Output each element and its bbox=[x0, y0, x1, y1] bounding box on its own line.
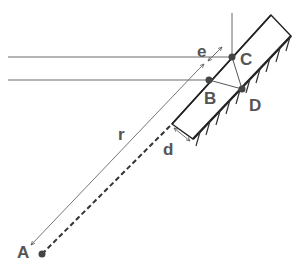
label-d: D bbox=[249, 96, 261, 115]
point-c bbox=[229, 54, 236, 61]
dimension-arrow-e-lower bbox=[197, 64, 204, 71]
label-a: A bbox=[17, 243, 29, 262]
label-b: B bbox=[204, 89, 216, 108]
segment-bd bbox=[209, 80, 242, 89]
point-a bbox=[39, 251, 46, 258]
point-b bbox=[206, 77, 213, 84]
label-e: e bbox=[197, 42, 206, 61]
dashed-line-a bbox=[42, 124, 172, 254]
label-r: r bbox=[118, 125, 125, 144]
label-c: C bbox=[240, 50, 252, 69]
label-d-distance: d bbox=[163, 140, 173, 159]
point-d bbox=[239, 86, 246, 93]
geometry-diagram: A B C D r e d bbox=[0, 0, 306, 272]
